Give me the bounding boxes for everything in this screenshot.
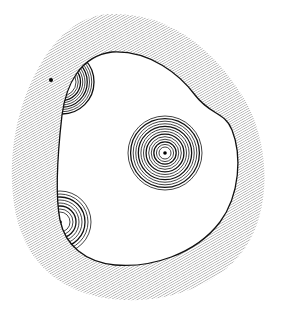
point-markers <box>49 78 53 82</box>
source-center-dot <box>163 151 167 155</box>
isolated-dot <box>49 78 53 82</box>
diagram-canvas <box>0 0 281 309</box>
